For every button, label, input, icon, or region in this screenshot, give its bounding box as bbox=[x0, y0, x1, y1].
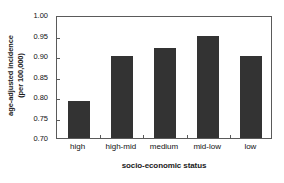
x-tick-mark bbox=[230, 135, 231, 138]
y-tick-label: 0.90 bbox=[33, 53, 48, 61]
bar bbox=[240, 56, 262, 138]
y-tick-label: 0.95 bbox=[33, 33, 48, 41]
y-axis-tick-labels: 0.700.750.800.850.900.951.00 bbox=[26, 16, 52, 139]
x-axis-title: socio-economic status bbox=[56, 161, 272, 170]
bar-chart: age-adjusted incidence (per 100,000) 0.7… bbox=[0, 0, 284, 183]
y-tick-mark bbox=[57, 38, 60, 39]
bar bbox=[111, 56, 133, 138]
x-tick-mark bbox=[143, 135, 144, 138]
y-axis-title: age-adjusted incidence (per 100,000) bbox=[2, 0, 28, 150]
x-tick-label: high-mid bbox=[105, 142, 136, 152]
y-axis-title-line1: age-adjusted incidence bbox=[6, 35, 15, 116]
x-tick-label: high bbox=[70, 142, 85, 152]
y-tick-mark bbox=[57, 99, 60, 100]
y-tick-label: 0.80 bbox=[33, 94, 48, 102]
x-axis-tick-labels: highhigh-midmediummid-lowlow bbox=[56, 142, 272, 156]
x-tick-mark bbox=[187, 135, 188, 138]
x-tick-label: low bbox=[244, 142, 256, 152]
x-tick-label: medium bbox=[150, 142, 178, 152]
y-tick-label: 0.75 bbox=[33, 115, 48, 123]
bar bbox=[68, 101, 90, 138]
bar bbox=[154, 48, 176, 138]
y-tick-label: 1.00 bbox=[33, 12, 48, 20]
x-tick-label: mid-low bbox=[193, 142, 221, 152]
y-tick-label: 0.70 bbox=[33, 135, 48, 143]
plot-area bbox=[56, 16, 272, 139]
y-tick-label: 0.85 bbox=[33, 74, 48, 82]
y-tick-mark bbox=[57, 58, 60, 59]
y-tick-mark bbox=[57, 120, 60, 121]
y-tick-mark bbox=[57, 79, 60, 80]
y-axis-title-line2: (per 100,000) bbox=[15, 53, 24, 98]
bar bbox=[197, 36, 219, 139]
x-tick-mark bbox=[100, 135, 101, 138]
